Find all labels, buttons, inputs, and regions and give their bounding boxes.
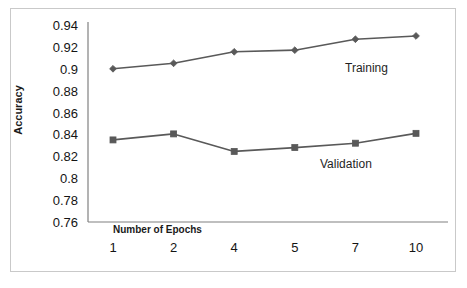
series-validation bbox=[110, 130, 419, 154]
data-point-marker bbox=[231, 48, 238, 55]
data-point-marker bbox=[413, 130, 419, 136]
data-point-marker bbox=[170, 60, 177, 67]
series-training bbox=[110, 33, 420, 73]
data-point-marker bbox=[110, 65, 117, 72]
plot-area bbox=[0, 0, 467, 288]
data-point-marker bbox=[171, 131, 177, 137]
data-point-marker bbox=[352, 36, 359, 43]
data-point-marker bbox=[292, 145, 298, 151]
series-line-training bbox=[113, 36, 416, 69]
data-point-marker bbox=[352, 140, 358, 146]
data-point-marker bbox=[413, 33, 420, 40]
data-point-marker bbox=[291, 47, 298, 54]
chart-figure: Accuracy 0.940.920.90.880.860.840.820.80… bbox=[0, 0, 467, 288]
data-point-marker bbox=[110, 137, 116, 143]
data-point-marker bbox=[231, 148, 237, 154]
series-line-validation bbox=[113, 133, 416, 151]
